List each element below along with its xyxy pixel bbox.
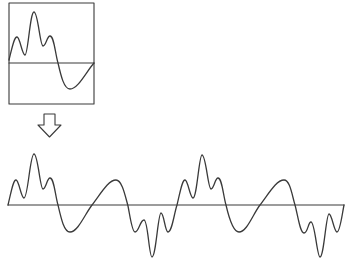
single-period-waveform — [9, 12, 94, 89]
diagram-svg — [0, 0, 349, 265]
repeated-signal-panel — [8, 154, 344, 257]
waveform-diagram: One period of a complex periodic wavefor… — [0, 0, 349, 265]
single-period-box — [9, 3, 94, 104]
hollow-down-arrow-icon — [38, 114, 61, 137]
single-period-panel — [9, 3, 94, 104]
